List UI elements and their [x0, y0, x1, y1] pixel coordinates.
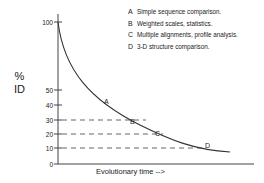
legend-item-d: D3-D structure comparison. — [128, 41, 238, 53]
legend-item-a: ASimple sequence comparison. — [128, 6, 238, 18]
x-axis-label: Evolutionary time --> — [96, 167, 165, 176]
svg-text:50: 50 — [46, 87, 54, 94]
point-labels: A B C D — [104, 98, 210, 149]
y-axis-label: % ID — [14, 70, 25, 96]
svg-text:40: 40 — [46, 102, 54, 109]
point-label-a: A — [104, 98, 109, 105]
y-tick-labels: 100 50 40 30 20 10 0 — [42, 19, 53, 168]
point-label-b: B — [130, 118, 135, 125]
point-label-d: D — [205, 142, 210, 149]
svg-text:10: 10 — [46, 145, 54, 152]
point-label-c: C — [155, 130, 160, 137]
legend: ASimple sequence comparison. BWeighted s… — [128, 6, 238, 52]
svg-text:20: 20 — [46, 131, 54, 138]
svg-text:100: 100 — [42, 19, 53, 26]
svg-text:0: 0 — [49, 161, 53, 168]
legend-item-b: BWeighted scales, statistics. — [128, 18, 238, 30]
svg-text:30: 30 — [46, 117, 54, 124]
legend-item-c: CMultiple alignments, profile analysis. — [128, 29, 238, 41]
